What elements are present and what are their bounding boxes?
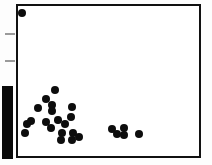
y-axis-tick-1 xyxy=(5,60,15,62)
plot-frame xyxy=(16,4,201,158)
scan-edge-artifact xyxy=(2,86,13,159)
scatter-plot-figure xyxy=(0,0,212,165)
data-point-main-cluster-5 xyxy=(34,104,42,112)
data-point-main-cluster-7 xyxy=(67,113,75,121)
data-point-main-cluster-12 xyxy=(23,120,31,128)
data-point-right-group-23 xyxy=(120,131,128,139)
plot-area xyxy=(18,6,199,156)
data-point-main-cluster-4 xyxy=(48,107,56,115)
y-axis-tick-0 xyxy=(5,33,15,35)
data-point-main-cluster-14 xyxy=(47,124,55,132)
data-point-main-cluster-13 xyxy=(21,129,29,137)
data-point-main-cluster-19 xyxy=(75,133,83,141)
data-point-right-group-24 xyxy=(135,130,143,138)
data-point-main-cluster-10 xyxy=(61,120,69,128)
